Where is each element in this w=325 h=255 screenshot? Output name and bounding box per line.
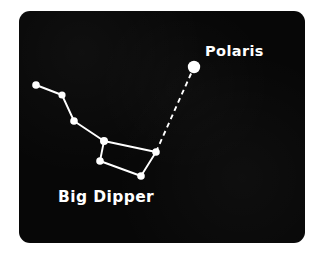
constellation-line <box>104 141 156 152</box>
star-point <box>70 117 78 125</box>
night-sky-card: Polaris Big Dipper <box>19 11 305 243</box>
constellation-line <box>100 161 141 176</box>
pointer-line <box>156 67 194 152</box>
constellation-line <box>36 85 62 95</box>
pointer-line-group <box>156 67 194 152</box>
star-chart-illustration: Polaris Big Dipper <box>0 0 325 255</box>
constellation-line <box>62 95 74 121</box>
constellation-line <box>74 121 104 141</box>
star-group <box>32 61 200 180</box>
constellation-line <box>141 152 156 176</box>
big-dipper-label: Big Dipper <box>58 190 154 206</box>
star-point <box>96 157 104 165</box>
constellation-line-group <box>36 85 156 176</box>
star-point <box>100 137 108 145</box>
star-point <box>32 81 40 89</box>
star-point <box>137 172 145 180</box>
star-point <box>152 148 160 156</box>
star-point <box>58 91 65 98</box>
star-point <box>188 61 200 73</box>
polaris-label: Polaris <box>205 44 264 59</box>
